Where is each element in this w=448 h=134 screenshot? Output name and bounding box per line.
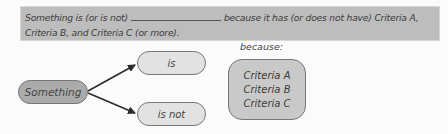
arrow-to-is-not xyxy=(88,93,135,113)
is-node: is xyxy=(137,51,206,75)
is-label: is xyxy=(168,58,176,69)
branch-arrows xyxy=(0,0,448,134)
is-not-node: is not xyxy=(137,102,206,126)
criteria-c: Criteria C xyxy=(243,97,290,111)
criteria-a: Criteria A xyxy=(244,69,291,83)
subject-label: Something xyxy=(25,86,82,98)
criteria-b: Criteria B xyxy=(243,83,290,97)
arrow-to-is xyxy=(88,65,135,91)
is-not-label: is not xyxy=(158,109,186,120)
because-label: because: xyxy=(240,41,283,52)
criteria-box: Criteria A Criteria B Criteria C xyxy=(228,59,306,120)
subject-node: Something xyxy=(18,80,88,104)
